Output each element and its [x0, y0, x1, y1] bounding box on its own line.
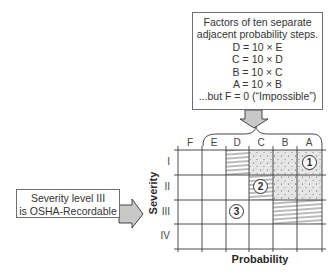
marker-2: 2 [253, 179, 268, 194]
marker-3: 3 [229, 204, 244, 219]
callout-line: A = 10 × B [193, 78, 322, 90]
callout-line: D = 10 × E [193, 41, 322, 53]
callout-line: is OSHA-Recordable [17, 205, 119, 218]
y-axis-title: Severity [147, 171, 159, 215]
down-arrow-icon [240, 110, 268, 128]
callout-line: adjacent probability steps. [193, 28, 322, 40]
row-label-i: I [155, 156, 170, 167]
column-label-d: D [225, 137, 249, 148]
callout-line: Severity level III [17, 192, 119, 205]
factors-of-ten-callout: Factors of ten separate adjacent probabi… [192, 12, 323, 110]
row-label-iv: IV [155, 230, 170, 241]
column-label-e: E [202, 137, 226, 148]
callout-line: C = 10 × D [193, 53, 322, 65]
column-label-b: B [273, 137, 297, 148]
column-label-a: A [297, 137, 321, 148]
column-label-f: F [178, 137, 202, 148]
callout-line: B = 10 × C [193, 66, 322, 78]
callout-line: ...but F = 0 (“Impossible”) [193, 90, 322, 102]
x-axis-title: Probability [220, 253, 300, 265]
column-label-c: C [249, 137, 273, 148]
right-arrow-icon [119, 199, 143, 228]
osha-recordable-callout: Severity level III is OSHA-Recordable [16, 189, 120, 218]
marker-1: 1 [302, 155, 317, 170]
callout-line: Factors of ten separate [193, 16, 322, 28]
